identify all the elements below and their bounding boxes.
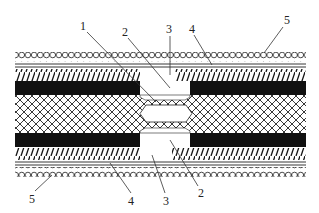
label-1-top: 1 <box>80 19 86 33</box>
label-4-bottom: 4 <box>128 194 134 208</box>
top-black-layer <box>15 81 306 95</box>
bottom-sheath-lines <box>15 162 306 165</box>
top-core-notch <box>140 95 190 100</box>
bottom-leader-lines <box>35 140 198 193</box>
label-3-bottom: 3 <box>163 194 169 208</box>
label-2-top: 2 <box>122 25 128 39</box>
bottom-hatched-layer <box>15 148 306 160</box>
label-5-top: 5 <box>284 13 290 27</box>
top-labels: 1 2 3 4 5 <box>80 13 290 39</box>
top-wire-layer <box>15 52 306 62</box>
label-2-bottom: 2 <box>198 186 204 200</box>
core-hexagonal-void <box>140 105 192 122</box>
bottom-labels: 5 4 3 2 <box>29 186 204 208</box>
label-4-top: 4 <box>189 22 195 36</box>
label-3-top: 3 <box>166 22 172 36</box>
top-hatched-layer <box>15 69 306 81</box>
top-sheath-lines <box>15 64 306 67</box>
bottom-black-layer <box>15 133 306 147</box>
bottom-wire-layer <box>15 167 306 177</box>
cable-cross-section-diagram: 1 2 3 4 5 5 4 3 2 <box>0 0 319 213</box>
label-5-bottom: 5 <box>29 192 35 206</box>
bottom-core-notch <box>140 128 190 133</box>
